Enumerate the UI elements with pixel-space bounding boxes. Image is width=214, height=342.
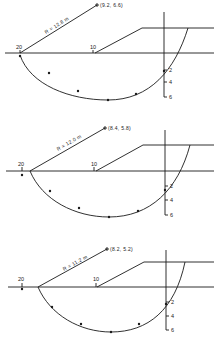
data-point	[21, 174, 23, 176]
data-point	[163, 70, 165, 72]
data-point	[78, 207, 80, 209]
data-point	[19, 55, 21, 57]
data-point	[48, 72, 50, 74]
data-point	[21, 288, 23, 290]
data-point	[77, 90, 79, 92]
data-point	[164, 189, 166, 191]
depth-label: 6	[170, 212, 173, 218]
depth-label: 4	[170, 197, 173, 203]
data-point	[107, 99, 109, 101]
x-tick-label: 20	[18, 161, 24, 167]
data-point	[80, 323, 82, 325]
depth-label: 4	[171, 313, 174, 319]
x-tick-label: 20	[18, 276, 24, 282]
x-tick-label: 10	[93, 276, 99, 282]
center-coordinate-label: (8.2, 5.2)	[110, 246, 133, 252]
depth-label: 2	[171, 299, 174, 305]
radius-line	[20, 5, 97, 53]
slip-surface-arc	[20, 28, 188, 100]
x-tick-label: 20	[16, 44, 22, 50]
data-point	[137, 210, 139, 212]
depth-label: 6	[169, 94, 172, 100]
data-point	[110, 331, 112, 333]
radius-label: R = 11.2 m	[62, 253, 89, 271]
data-point	[49, 190, 51, 192]
slope-profile	[95, 28, 214, 53]
panel-3: 2 4 6 20 10 (8.2, 5.2) R = 11.2 m	[8, 246, 214, 333]
x-tick-label: 10	[91, 161, 97, 167]
panel-2: 2 4 6 20 10 (8.4, 5.8) R = 12.0 m	[6, 125, 214, 218]
x-tick-label: 10	[90, 44, 96, 50]
center-coordinate-label: (9.2, 6.6)	[100, 2, 123, 8]
data-point	[108, 216, 110, 218]
slip-surface-arc	[30, 145, 190, 217]
slope-profile	[96, 145, 214, 171]
depth-label: 6	[171, 327, 174, 333]
panel-1: 2 4 6 20 10 (9.2, 6.6) R = 12.8 m	[5, 2, 214, 101]
depth-label: 4	[169, 79, 172, 85]
slip-circle-diagram: 2 4 6 20 10 (9.2, 6.6) R = 12.8 m 2 4 6	[0, 0, 214, 342]
slope-profile	[97, 262, 214, 287]
data-point	[165, 303, 167, 305]
data-point	[135, 93, 137, 95]
data-point	[138, 323, 140, 325]
data-point	[51, 306, 53, 308]
center-coordinate-label: (8.4, 5.8)	[108, 125, 131, 131]
radius-label: R = 12.8 m	[43, 15, 70, 35]
slip-surface-arc	[38, 262, 185, 332]
